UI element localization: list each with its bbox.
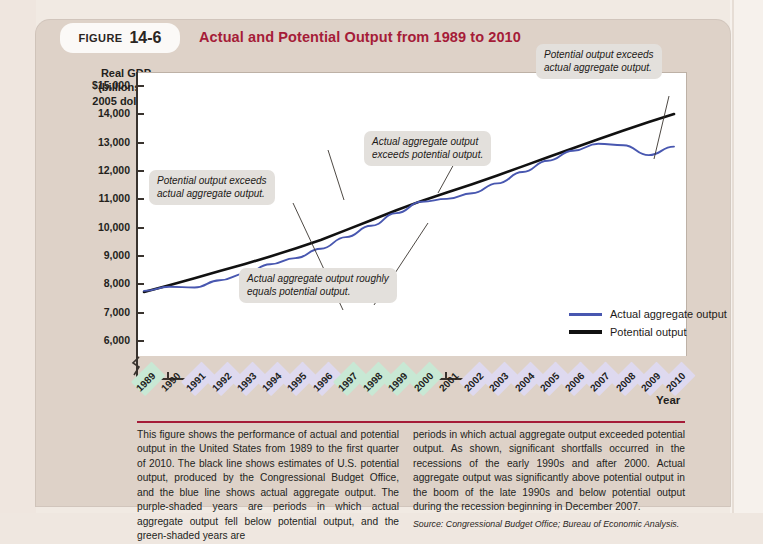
y-tick-label-10000: 10,000	[60, 221, 130, 233]
legend-label-actual: Actual aggregate output	[610, 308, 727, 320]
y-tick-7000	[137, 312, 144, 314]
y-tick-label-14000: 14,000	[60, 107, 130, 119]
legend-label-potential: Potential output	[610, 326, 686, 338]
figure-number-tab: FIGURE 14-6	[60, 23, 180, 53]
caption-column-right: periods in which actual aggregate output…	[413, 428, 685, 530]
caption-source-text: Congressional Budget Office; Bureau of E…	[443, 519, 679, 529]
chart-legend: Actual aggregate output Potential output	[569, 305, 727, 341]
figure-number: 14-6	[129, 29, 161, 47]
annotation-potential-exceeds-actual-left: Potential output exceeds actual aggregat…	[149, 170, 275, 205]
y-tick-11000	[137, 198, 144, 200]
page-right-rule	[732, 0, 734, 513]
y-tick-label-7000: 7,000	[60, 306, 130, 318]
y-tick-label-6000: 6,000	[60, 334, 130, 346]
y-tick-label-13000: 13,000	[60, 136, 130, 148]
figure-card: FIGURE 14-6 Actual and Potential Output …	[36, 20, 730, 506]
y-tick-12000	[137, 170, 144, 172]
page-right-margin	[730, 0, 763, 513]
annotation-3-line-2: exceeds potential output.	[372, 148, 483, 161]
y-tick-15000	[137, 85, 144, 87]
caption-source: Source: Congressional Budget Office; Bur…	[413, 518, 685, 530]
legend-swatch-potential	[569, 330, 602, 334]
annotation-actual-equals-potential: Actual aggregate output roughly equals p…	[239, 268, 397, 303]
page-left-margin	[0, 0, 36, 513]
legend-item-actual: Actual aggregate output	[569, 305, 727, 323]
y-tick-14000	[137, 113, 144, 115]
y-tick-13000	[137, 142, 144, 144]
x-axis-title: Year	[656, 394, 680, 406]
caption-column-left: This figure shows the performance of act…	[137, 428, 399, 544]
y-tick-label-11000: 11,000	[60, 192, 130, 204]
legend-swatch-actual	[569, 313, 602, 316]
y-tick-6000	[137, 340, 144, 342]
figure-label-word: FIGURE	[79, 32, 123, 44]
annotation-4-line-2: actual aggregate output.	[544, 61, 654, 74]
annotation-4-line-1: Potential output exceeds	[544, 48, 654, 61]
annotation-1-line-2: actual aggregate output.	[157, 187, 267, 200]
legend-item-potential: Potential output	[569, 323, 727, 341]
y-tick-10000	[137, 227, 144, 229]
y-tick-8000	[137, 283, 144, 285]
annotation-2-line-1: Actual aggregate output roughly	[247, 272, 389, 285]
figure-title: Actual and Potential Output from 1989 to…	[199, 29, 521, 45]
annotation-3-line-1: Actual aggregate output	[372, 135, 483, 148]
y-tick-label-9000: 9,000	[60, 249, 130, 261]
caption-source-label: Source:	[413, 519, 443, 529]
y-tick-9000	[137, 255, 144, 257]
caption-divider	[137, 421, 685, 423]
y-tick-label-8000: 8,000	[60, 277, 130, 289]
annotation-actual-exceeds-potential: Actual aggregate output exceeds potentia…	[364, 131, 491, 166]
annotation-potential-exceeds-actual-right: Potential output exceeds actual aggregat…	[536, 44, 662, 79]
annotation-1-line-1: Potential output exceeds	[157, 174, 267, 187]
caption-right-text: periods in which actual aggregate output…	[413, 429, 685, 512]
leader-line-1	[328, 150, 344, 200]
y-tick-label-12000: 12,000	[60, 164, 130, 176]
annotation-2-line-2: equals potential output.	[247, 285, 389, 298]
y-tick-label-15000: $15,000	[60, 79, 130, 91]
